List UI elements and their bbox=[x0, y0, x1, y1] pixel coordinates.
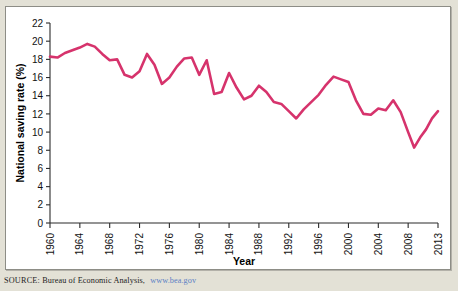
x-tick-label: 2004 bbox=[373, 233, 384, 256]
x-tick-label: 1988 bbox=[253, 233, 264, 256]
y-tick-label: 18 bbox=[32, 54, 44, 65]
y-tick-label: 12 bbox=[32, 109, 44, 120]
source-note: SOURCE: Bureau of Economic Analysis, www… bbox=[4, 276, 196, 285]
y-tick-label: 2 bbox=[37, 199, 43, 210]
y-axis: 0246810121416182022 bbox=[32, 18, 50, 229]
y-tick-label: 22 bbox=[32, 18, 44, 29]
national-saving-rate-line-chart: 0246810121416182022 19601964196819721976… bbox=[6, 7, 452, 269]
x-tick-label: 1984 bbox=[224, 233, 235, 256]
y-tick-label: 4 bbox=[37, 181, 43, 192]
x-tick-label: 1980 bbox=[194, 233, 205, 256]
y-tick-label: 20 bbox=[32, 36, 44, 47]
x-tick-label: 2008 bbox=[403, 233, 414, 256]
x-axis: 1960196419681972197619801984198819921996… bbox=[45, 223, 444, 255]
x-tick-label: 1972 bbox=[134, 233, 145, 256]
x-tick-label: 1964 bbox=[74, 233, 85, 256]
y-tick-label: 16 bbox=[32, 72, 44, 83]
x-tick-label: 1996 bbox=[313, 233, 324, 256]
x-tick-label: 1960 bbox=[45, 233, 56, 256]
source-text: Bureau of Economic Analysis, bbox=[42, 276, 145, 285]
y-tick-label: 14 bbox=[32, 90, 44, 101]
x-tick-label: 2013 bbox=[433, 233, 444, 256]
figure-panel: 0246810121416182022 19601964196819721976… bbox=[5, 6, 451, 270]
data-series-group bbox=[50, 44, 438, 148]
x-axis-title: Year bbox=[233, 255, 255, 267]
y-tick-label: 10 bbox=[32, 127, 44, 138]
x-tick-label: 1968 bbox=[104, 233, 115, 256]
source-url-link[interactable]: www.bea.gov bbox=[150, 276, 196, 285]
y-axis-title: National saving rate (%) bbox=[14, 63, 26, 182]
y-tick-label: 8 bbox=[37, 145, 43, 156]
source-label: SOURCE: bbox=[4, 276, 40, 285]
x-tick-label: 1992 bbox=[283, 233, 294, 256]
y-tick-label: 6 bbox=[37, 163, 43, 174]
chart-plot-area: 0246810121416182022 19601964196819721976… bbox=[6, 7, 450, 269]
x-tick-label: 1976 bbox=[164, 233, 175, 256]
data-line-national-saving-rate bbox=[50, 44, 438, 148]
x-tick-label: 2000 bbox=[343, 233, 354, 256]
y-tick-label: 0 bbox=[37, 218, 43, 229]
